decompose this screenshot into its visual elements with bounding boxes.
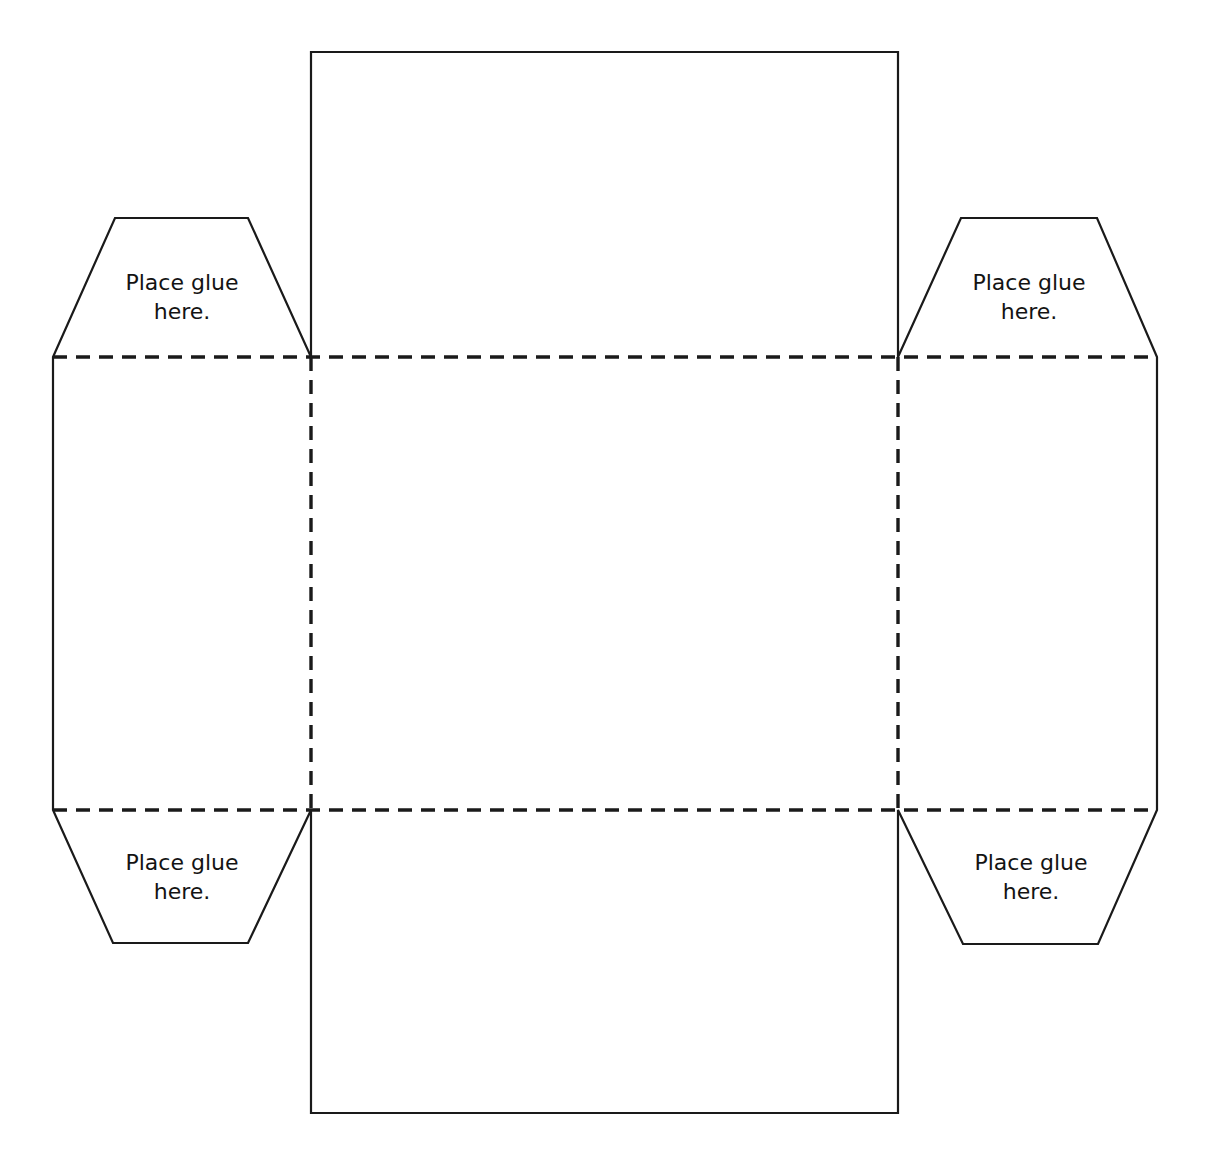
box-net-drawing: Place glue here. Place glue here. Place … xyxy=(0,0,1209,1174)
glue-label-line-2: here. xyxy=(154,879,211,904)
glue-label-line-2: here. xyxy=(1001,299,1058,324)
glue-label-line-1: Place glue xyxy=(125,850,238,875)
glue-label-line-1: Place glue xyxy=(972,270,1085,295)
glue-label-line-1: Place glue xyxy=(125,270,238,295)
glue-label-line-2: here. xyxy=(154,299,211,324)
papercraft-template-canvas: Place glue here. Place glue here. Place … xyxy=(0,0,1209,1174)
glue-label-line-1: Place glue xyxy=(974,850,1087,875)
glue-label-line-2: here. xyxy=(1003,879,1060,904)
